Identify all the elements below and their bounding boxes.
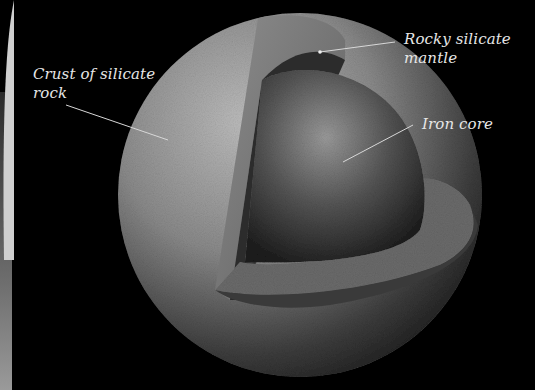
core-label: Iron core bbox=[422, 115, 493, 134]
planet-interior-diagram: Crust of silicate rock Rocky silicate ma… bbox=[0, 0, 535, 390]
mantle-label: Rocky silicate mantle bbox=[404, 30, 511, 68]
crust-label: Crust of silicate rock bbox=[33, 65, 155, 103]
